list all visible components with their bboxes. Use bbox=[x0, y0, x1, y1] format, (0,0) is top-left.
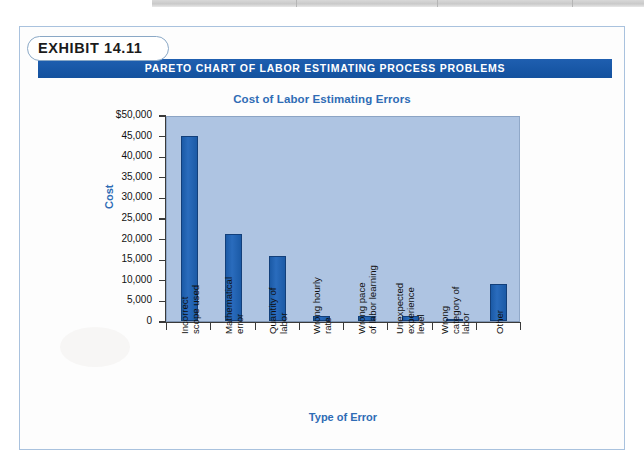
x-axis-tick-label-line: level bbox=[417, 283, 428, 334]
x-axis-tick-label-line: labor bbox=[279, 288, 290, 334]
x-axis-title: Type of Error bbox=[166, 411, 520, 423]
y-axis-tick-label: 10,000 bbox=[0, 274, 162, 285]
scan-artifact-strip bbox=[152, 0, 644, 7]
x-axis-tick-label: Wrong paceof labor learning bbox=[357, 265, 378, 334]
x-axis-tick-label-line: Mathematical bbox=[224, 277, 235, 334]
exhibit-banner-title: PARETO CHART OF LABOR ESTIMATING PROCESS… bbox=[38, 59, 612, 78]
x-axis-tick bbox=[520, 323, 521, 330]
x-axis-tick-label-line: labor bbox=[461, 287, 472, 334]
x-axis-tick bbox=[210, 323, 211, 330]
x-axis-tick-label: Incorrectscope used bbox=[180, 285, 201, 334]
y-axis-tick-label: 30,000 bbox=[0, 191, 162, 202]
x-axis-tick-label: Mathematicalerror bbox=[224, 277, 245, 334]
y-axis-tick-label: 45,000 bbox=[0, 130, 162, 141]
x-axis-tick bbox=[476, 323, 477, 330]
x-axis-tick bbox=[387, 323, 388, 330]
x-axis-tick-label: Wrong hourlyrate bbox=[312, 277, 333, 334]
x-axis-tick-label: Quantity oflabor bbox=[268, 288, 289, 334]
y-axis-tick-label: 0 bbox=[0, 315, 162, 326]
x-axis-tick bbox=[343, 323, 344, 330]
y-axis-tick-label: 20,000 bbox=[0, 233, 162, 244]
y-axis-tick-label: 15,000 bbox=[0, 253, 162, 264]
y-axis-tick-label: 5,000 bbox=[0, 294, 162, 305]
x-axis-tick bbox=[299, 323, 300, 330]
y-axis-tick-label: 25,000 bbox=[0, 212, 162, 223]
exhibit-number-label: EXHIBIT 14.11 bbox=[38, 40, 143, 56]
x-axis-tick bbox=[166, 323, 167, 330]
y-axis-tick-label: 35,000 bbox=[0, 171, 162, 182]
x-axis-tick-label-line: error bbox=[234, 277, 245, 334]
x-axis-tick-label-line: Wrong pace bbox=[357, 265, 368, 334]
x-axis-tick-label-line: Incorrect bbox=[180, 285, 191, 334]
y-axis-title: Cost bbox=[103, 185, 115, 209]
x-axis-tick-label: Unexpectedexperiencelevel bbox=[395, 283, 427, 334]
x-axis-tick bbox=[255, 323, 256, 330]
x-axis-tick-label-line: Wrong bbox=[440, 287, 451, 334]
exhibit-banner: PARETO CHART OF LABOR ESTIMATING PROCESS… bbox=[38, 59, 612, 78]
x-axis-tick-label-line: Other bbox=[495, 310, 506, 334]
x-axis-tick-label-line: of labor learning bbox=[367, 265, 378, 334]
chart-title: Cost of Labor Estimating Errors bbox=[0, 93, 644, 105]
y-axis-tick-label: 40,000 bbox=[0, 150, 162, 161]
y-axis-tick-label: $50,000 bbox=[0, 109, 162, 120]
x-axis-tick-label-line: scope used bbox=[190, 285, 201, 334]
x-axis-tick bbox=[432, 323, 433, 330]
x-axis-tick-label: Other bbox=[495, 310, 506, 334]
x-axis-tick-label: Wrongcategory oflabor bbox=[440, 287, 472, 334]
x-axis-tick-label-line: rate bbox=[323, 277, 334, 334]
